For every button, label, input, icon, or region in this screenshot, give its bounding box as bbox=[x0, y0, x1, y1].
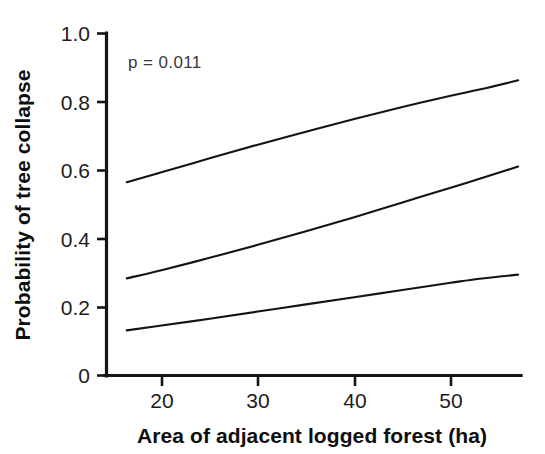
x-tick-marks bbox=[162, 376, 451, 386]
x-tick-label-20: 20 bbox=[150, 389, 173, 412]
x-tick-label-30: 30 bbox=[246, 389, 269, 412]
y-tick-label-1.0: 1.0 bbox=[61, 22, 90, 45]
figure-container: 1.0 0.8 0.6 0.4 0.2 0 20 30 40 50 p = 0.… bbox=[0, 0, 545, 454]
series-line-upper-confidence-limit bbox=[127, 80, 518, 182]
x-tick-label-50: 50 bbox=[439, 389, 462, 412]
y-tick-label-0.8: 0.8 bbox=[61, 91, 90, 114]
x-tick-labels: 20 30 40 50 bbox=[150, 389, 462, 412]
y-tick-label-0.4: 0.4 bbox=[61, 228, 91, 251]
p-value-annotation: p = 0.011 bbox=[128, 53, 202, 72]
y-tick-marks bbox=[97, 34, 106, 376]
y-tick-label-0.6: 0.6 bbox=[61, 159, 90, 182]
data-series-group bbox=[127, 80, 518, 330]
x-tick-label-40: 40 bbox=[343, 389, 366, 412]
y-axis-title: Probability of tree collapse bbox=[11, 69, 34, 340]
x-axis-title: Area of adjacent logged forest (ha) bbox=[137, 424, 487, 447]
series-line-fitted-probability bbox=[127, 167, 518, 279]
y-tick-label-0: 0 bbox=[78, 364, 90, 387]
y-tick-label-0.2: 0.2 bbox=[61, 296, 90, 319]
series-line-lower-confidence-limit bbox=[127, 275, 518, 331]
chart-canvas: 1.0 0.8 0.6 0.4 0.2 0 20 30 40 50 p = 0.… bbox=[0, 0, 545, 454]
y-tick-labels: 1.0 0.8 0.6 0.4 0.2 0 bbox=[61, 22, 91, 387]
